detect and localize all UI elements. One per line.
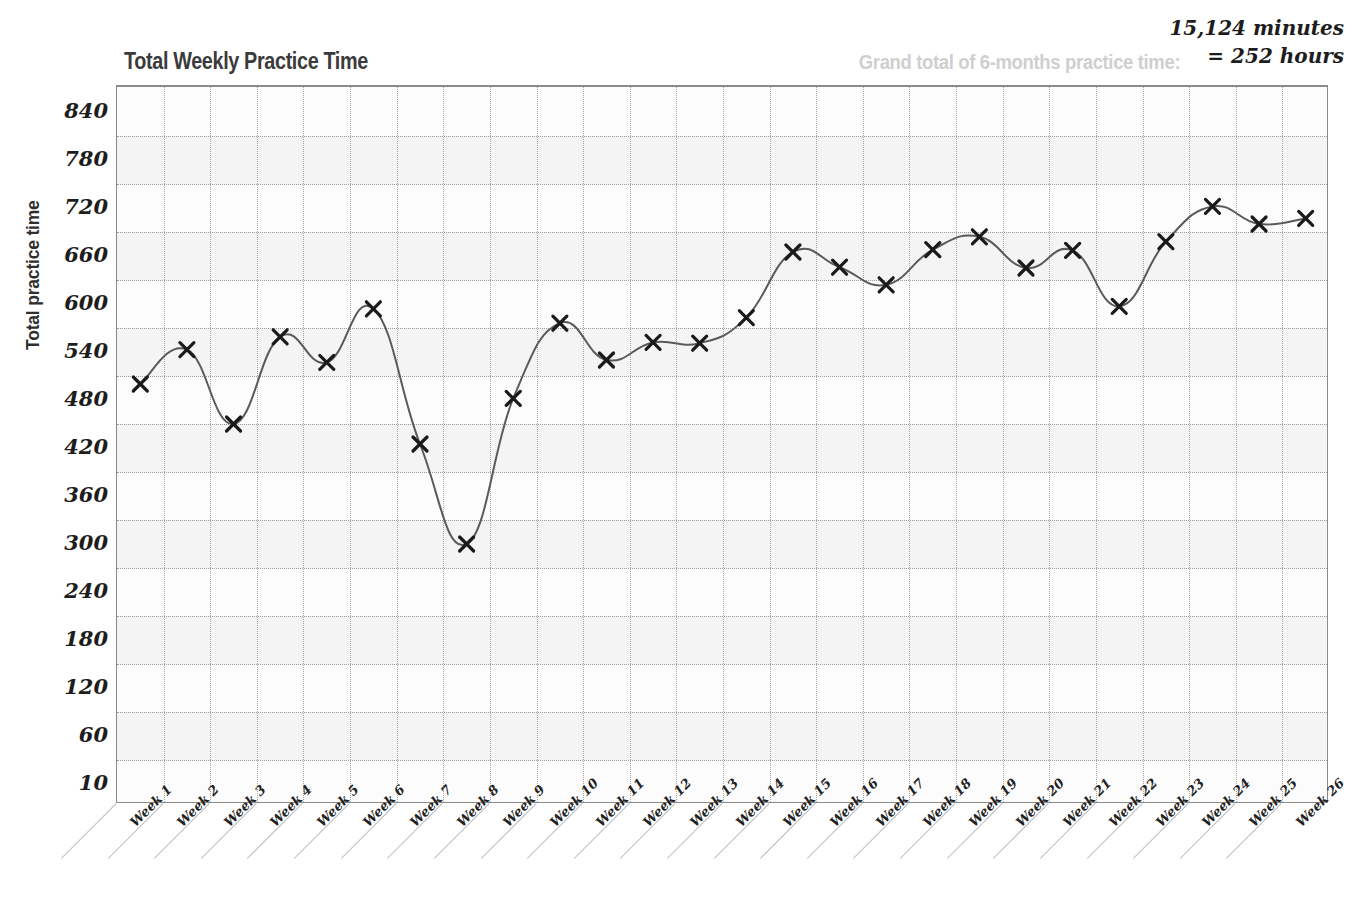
- grand-total-minutes: 15,124 minutes: [1169, 14, 1344, 42]
- data-point-marker: [413, 437, 427, 451]
- data-point-marker: [1159, 235, 1173, 249]
- data-point-marker: [460, 537, 474, 551]
- y-tick-label: 300: [48, 530, 108, 555]
- y-tick-label: 780: [48, 146, 108, 171]
- y-tick-label: 420: [48, 434, 108, 459]
- data-point-marker: [739, 311, 753, 325]
- grand-total-label: Grand total of 6-months practice time:: [859, 50, 1180, 74]
- x-tick-separator: [61, 803, 117, 859]
- data-point-marker: [553, 316, 567, 330]
- y-tick-label: 840: [48, 98, 108, 123]
- plot-area: [116, 85, 1328, 803]
- data-point-marker: [273, 330, 287, 344]
- y-tick-label: 360: [48, 482, 108, 507]
- y-tick-label: 10: [48, 770, 108, 795]
- series-overlay: [117, 87, 1328, 803]
- series-markers: [133, 199, 1312, 551]
- data-point-marker: [926, 243, 940, 257]
- grand-total-value: 15,124 minutes = 252 hours: [1169, 14, 1344, 70]
- y-tick-label: 720: [48, 194, 108, 219]
- page-title: Total Weekly Practice Time: [124, 48, 368, 75]
- y-tick-label: 180: [48, 626, 108, 651]
- data-point-marker: [693, 336, 707, 350]
- x-axis-tick-labels: Week 1Week 2Week 3Week 4Week 5Week 6Week…: [116, 803, 1328, 900]
- chart-page: Total Weekly Practice Time Grand total o…: [0, 0, 1366, 900]
- y-axis-title: Total practice time: [22, 200, 44, 350]
- y-tick-label: 540: [48, 338, 108, 363]
- y-tick-label: 240: [48, 578, 108, 603]
- data-point-marker: [833, 260, 847, 274]
- data-point-marker: [180, 343, 194, 357]
- y-tick-label: 660: [48, 242, 108, 267]
- y-tick-label: 120: [48, 674, 108, 699]
- y-tick-label: 60: [48, 722, 108, 747]
- data-point-marker: [786, 245, 800, 259]
- data-point-marker: [133, 377, 147, 391]
- grand-total-hours: = 252 hours: [1169, 42, 1344, 70]
- series-line: [140, 206, 1305, 545]
- y-tick-label: 480: [48, 386, 108, 411]
- y-tick-label: 600: [48, 290, 108, 315]
- data-point-marker: [506, 391, 520, 405]
- data-point-marker: [1066, 243, 1080, 257]
- y-axis-tick-labels: 8407807206606005404804203603002401801206…: [44, 85, 108, 803]
- data-point-marker: [366, 302, 380, 316]
